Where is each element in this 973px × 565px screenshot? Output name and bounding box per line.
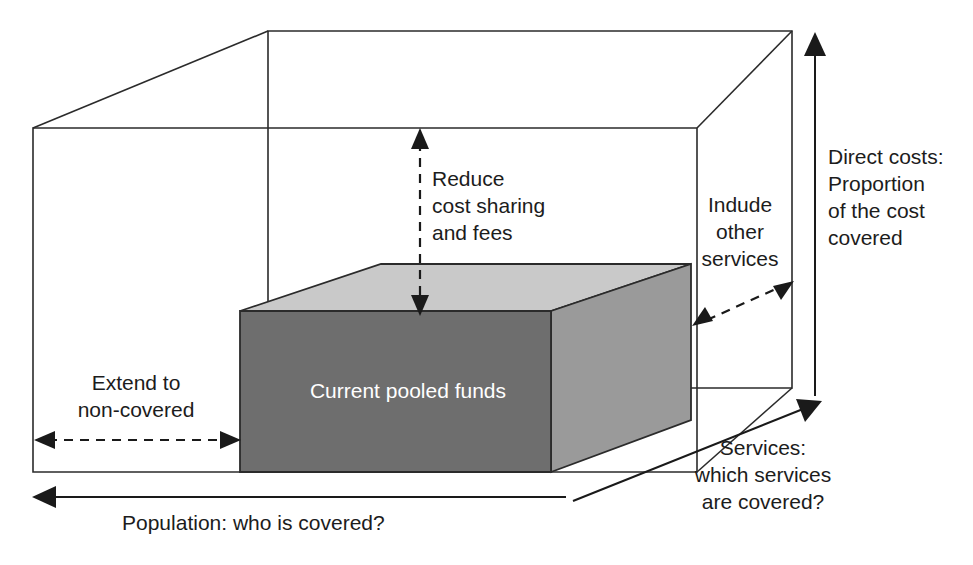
label-current-pooled-funds: Current pooled funds [288,377,528,404]
cube-edge-top-right-diagonal [697,31,792,128]
population-axis-arrow [32,486,566,508]
cube-edge-top-left-diagonal [33,31,268,128]
reduce-cost-sharing-arrowhead-up [411,128,429,149]
label-direct-costs: Direct costs: Proportion of the cost cov… [828,143,968,251]
include-other-services-arrowhead-upper-right [773,281,794,300]
label-population-axis: Population: who is covered? [122,509,522,536]
include-other-services-arrow-line [707,287,780,320]
label-services-axis: Services: which services are covered? [668,434,858,515]
direct-costs-axis-arrowhead [804,32,826,56]
current-pooled-funds-block [240,264,691,472]
include-other-services-arrowhead-lower-left [692,307,713,326]
include-other-services-arrow [692,281,794,326]
extend-to-non-covered-arrow [34,431,241,449]
population-axis-arrowhead [32,486,56,508]
extend-to-non-covered-arrowhead-left [34,431,55,449]
label-extend-to-non-covered: Extend to non-covered [36,369,236,423]
label-include-other-services: Indude other services [688,191,792,272]
label-reduce-cost-sharing: Reduce cost sharing and fees [432,165,602,246]
direct-costs-axis-arrow [804,32,826,396]
extend-to-non-covered-arrowhead-right [220,431,241,449]
diagram-canvas: Reduce cost sharing and fees Indude othe… [0,0,973,565]
